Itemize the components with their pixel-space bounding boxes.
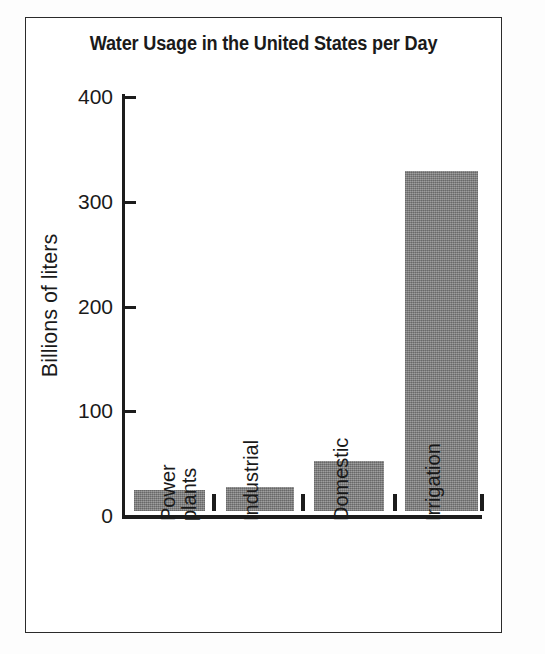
x-label-text: Power plants bbox=[158, 464, 200, 521]
x-tick-1 bbox=[212, 494, 216, 511]
x-label-line1: Irrigation bbox=[422, 443, 444, 521]
y-tick-mark bbox=[125, 306, 136, 309]
y-axis-title: Billions of liters bbox=[36, 96, 66, 515]
x-tick-4 bbox=[480, 494, 484, 511]
x-label-text: Irrigation bbox=[423, 443, 444, 521]
y-tick-label: 0 bbox=[101, 505, 113, 526]
x-label-line1: Power bbox=[157, 464, 179, 521]
y-tick-label: 100 bbox=[78, 400, 113, 421]
y-axis-title-text: Billions of liters bbox=[39, 234, 64, 377]
x-label-text: Domestic bbox=[331, 438, 352, 521]
x-tick-3 bbox=[393, 494, 397, 511]
figure-canvas: Water Usage in the United States per Day… bbox=[0, 0, 545, 654]
y-tick-label: 300 bbox=[78, 191, 113, 212]
y-tick-label: 200 bbox=[78, 296, 113, 317]
y-tick-mark bbox=[125, 515, 136, 518]
x-label-line1: Domestic bbox=[330, 438, 352, 521]
chart-title: Water Usage in the United States per Day bbox=[42, 32, 486, 55]
x-tick-2 bbox=[301, 494, 305, 511]
x-label-line1: Industrial bbox=[240, 440, 262, 521]
x-label-line2: plants bbox=[179, 464, 200, 521]
x-label-text: Industrial bbox=[241, 440, 262, 521]
y-tick-mark bbox=[125, 201, 136, 204]
y-tick-mark bbox=[125, 410, 136, 413]
y-tick-mark bbox=[125, 96, 136, 99]
y-tick-label: 400 bbox=[78, 86, 113, 107]
